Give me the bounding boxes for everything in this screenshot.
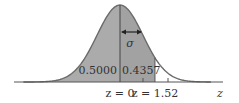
sigma-label: σ <box>126 37 134 50</box>
left-area-value: 0.5000 <box>79 64 118 77</box>
z0-label: z = 0 <box>105 87 134 100</box>
right-area-value: 0.4357 <box>122 64 161 77</box>
axis-label: z <box>216 87 223 100</box>
normal-curve-diagram: σ 0.5000 0.4357 z = 0 z = 1.52 z <box>0 0 239 103</box>
z152-label: z = 1.52 <box>132 87 179 100</box>
